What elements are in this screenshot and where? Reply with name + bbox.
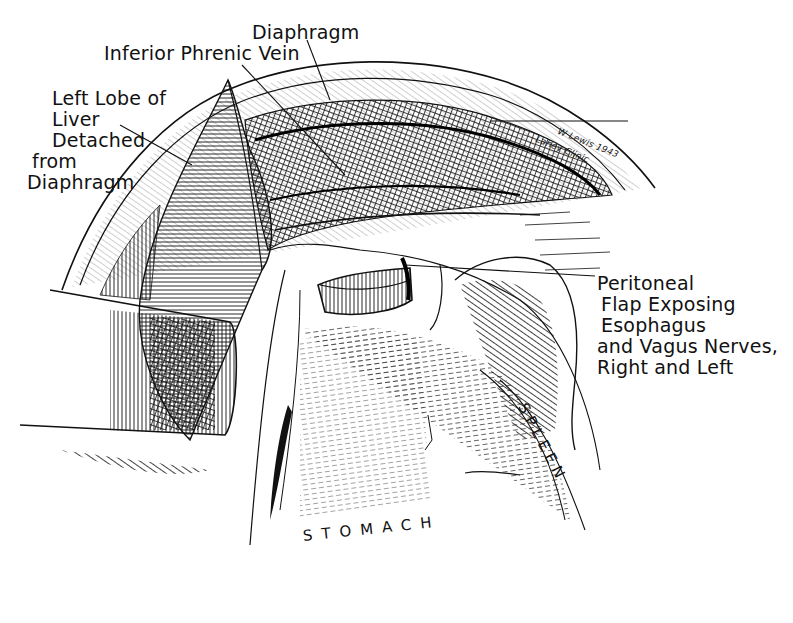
diaphragm-hatching xyxy=(520,212,610,270)
label-left-lobe-line3: Detached xyxy=(52,130,145,151)
leader-line-peritoneal-flap xyxy=(405,265,595,276)
label-peritoneal-line1: Peritoneal xyxy=(597,273,694,294)
label-inferior-phrenic-vein: Inferior Phrenic Vein xyxy=(104,43,300,64)
label-left-lobe-line4: from xyxy=(32,151,77,172)
esophagus-opening xyxy=(318,258,412,314)
label-left-lobe-line1: Left Lobe of xyxy=(52,88,166,109)
label-diaphragm: Diaphragm xyxy=(252,22,359,43)
label-peritoneal-line3: Esophagus xyxy=(601,315,706,336)
label-peritoneal-line2: Flap Exposing xyxy=(601,294,736,315)
label-peritoneal-line4: and Vagus Nerves, xyxy=(597,336,778,357)
retractor xyxy=(20,290,236,474)
anatomical-figure: Diaphragm Inferior Phrenic Vein Left Lob… xyxy=(0,0,793,623)
label-left-lobe-line2: Liver xyxy=(52,109,100,130)
label-peritoneal-line5: Right and Left xyxy=(597,357,733,378)
label-left-lobe-line5: Diaphragm xyxy=(27,172,134,193)
